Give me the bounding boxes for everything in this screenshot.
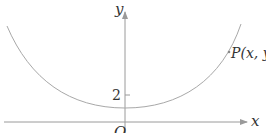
curve	[7, 24, 241, 108]
x-axis-label: x	[251, 112, 260, 130]
point-p-marker	[228, 51, 231, 54]
diagram-canvas: y x O 2 P(x, y)	[0, 0, 266, 133]
y-tick-label-2: 2	[112, 87, 121, 103]
point-p-label: P(x, y)	[230, 45, 266, 61]
y-axis-label: y	[114, 0, 124, 18]
origin-label: O	[114, 123, 126, 133]
